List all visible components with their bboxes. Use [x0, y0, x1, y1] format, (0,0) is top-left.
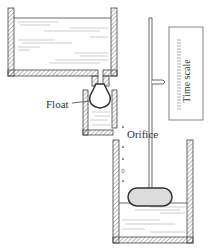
- time-scale-label: Time scale: [181, 59, 192, 102]
- float-valve: [90, 84, 111, 108]
- reservoir-water: [17, 22, 108, 63]
- water-clock-diagram: [0, 0, 209, 248]
- orifice-drips: [122, 125, 124, 182]
- indicator-rod: [149, 18, 152, 193]
- pointer: [152, 80, 165, 84]
- upper-reservoir: [8, 8, 117, 76]
- indicator-float: [128, 188, 172, 206]
- time-scale-label-box: Time scale: [169, 42, 203, 120]
- orifice-label: Orifice: [127, 128, 158, 140]
- float-label: Float: [46, 98, 69, 110]
